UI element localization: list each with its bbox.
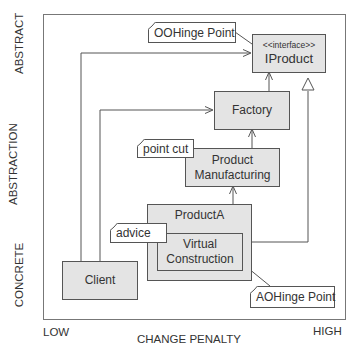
realization-triangle-icon — [302, 78, 314, 90]
class-product-manufacturing[interactable]: Product Manufacturing — [185, 148, 280, 187]
oohinge-text: OOHinge Point — [154, 26, 235, 40]
note-aohinge-point[interactable]: AOHinge Point — [250, 286, 335, 308]
note-advice[interactable]: advice — [110, 223, 167, 243]
product-manufacturing-line2: Manufacturing — [194, 168, 270, 183]
virtual-construction-line1: Virtual — [183, 237, 217, 252]
oohinge-anchor — [235, 32, 252, 44]
y-axis-top-label: ABSTRACT — [13, 14, 25, 74]
iproduct-stereotype: <<interface>> — [263, 40, 315, 51]
note-fold-icon — [110, 223, 118, 231]
client-name: Client — [85, 273, 116, 288]
class-virtual-construction[interactable]: Virtual Construction — [157, 233, 243, 271]
note-fold-icon — [137, 139, 145, 147]
x-axis-left-label: LOW — [43, 326, 69, 338]
factory-name: Factory — [232, 103, 272, 118]
note-fold-icon — [148, 22, 156, 30]
note-oohinge-point[interactable]: OOHinge Point — [148, 22, 236, 43]
class-client[interactable]: Client — [62, 261, 138, 300]
y-axis-bottom-label: CONCRETE — [13, 240, 25, 310]
advice-text: advice — [116, 226, 151, 240]
point-cut-text: point cut — [143, 142, 188, 156]
aohinge-text: AOHinge Point — [256, 290, 335, 304]
product-manufacturing-line1: Product — [212, 153, 253, 168]
x-axis-right-label: HIGH — [313, 325, 342, 337]
class-factory[interactable]: Factory — [214, 91, 290, 130]
x-axis-title: CHANGE PENALTY — [137, 333, 241, 345]
note-fold-icon — [250, 286, 258, 294]
iproduct-name: IProduct — [265, 51, 313, 67]
class-iproduct[interactable]: <<interface>> IProduct — [252, 34, 326, 73]
virtual-construction-line2: Construction — [166, 252, 233, 267]
note-point-cut[interactable]: point cut — [137, 139, 194, 158]
product-a-name: ProductA — [175, 208, 224, 223]
y-axis-title: ABSTRACTION — [7, 125, 19, 205]
